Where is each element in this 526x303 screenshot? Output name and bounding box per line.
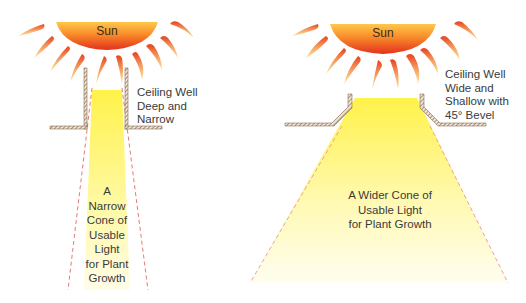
cone-label-right: A Wider Cone of Usable Light for Plant G… — [330, 188, 450, 232]
sun-label-left: Sun — [90, 25, 124, 39]
well-label-left: Ceiling Well Deep and Narrow — [137, 86, 198, 127]
sun-label-right: Sun — [366, 27, 400, 41]
well-label-right: Ceiling Well Wide and Shallow with 45° B… — [445, 68, 509, 122]
right-diagram — [250, 21, 508, 283]
cone-label-left: A Narrow Cone of Usable Light for Plant … — [72, 184, 142, 286]
